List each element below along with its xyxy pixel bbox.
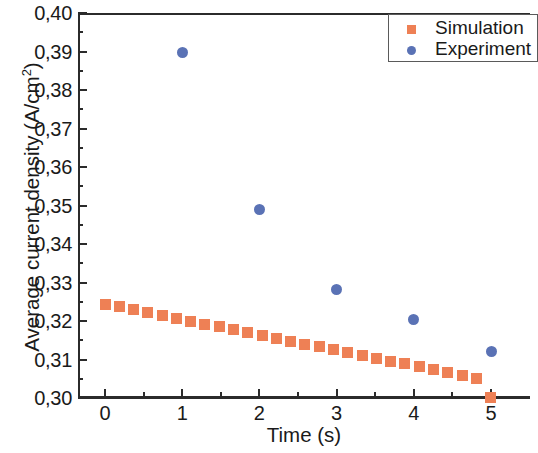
data-point <box>177 47 188 58</box>
y-tick-minor <box>78 108 83 110</box>
data-point <box>399 358 410 369</box>
x-tick-label: 1 <box>162 402 202 424</box>
data-point <box>457 370 468 381</box>
data-point <box>171 313 182 324</box>
y-tick-minor <box>78 70 83 72</box>
y-tick-major <box>78 166 87 168</box>
x-tick-major <box>336 389 338 398</box>
data-point <box>157 310 168 321</box>
x-tick-label: 2 <box>239 402 279 424</box>
data-point <box>142 307 153 318</box>
y-tick-minor <box>78 378 83 380</box>
y-tick-major <box>78 243 87 245</box>
data-point <box>214 321 225 332</box>
legend: SimulationExperiment <box>388 14 538 62</box>
y-tick-minor <box>78 224 83 226</box>
y-axis-title: Average current density (A/cm2) <box>21 27 43 387</box>
data-point <box>228 324 239 335</box>
y-tick-major <box>78 89 87 91</box>
data-point <box>428 364 439 375</box>
data-point <box>342 347 353 358</box>
x-tick-major <box>181 389 183 398</box>
x-tick-minor <box>220 392 222 397</box>
data-point <box>442 367 453 378</box>
y-tick-minor <box>78 185 83 187</box>
data-point <box>385 356 396 367</box>
x-axis-line <box>78 396 530 399</box>
x-tick-minor <box>297 392 299 397</box>
x-tick-label: 4 <box>394 402 434 424</box>
data-point <box>242 327 253 338</box>
data-point <box>285 336 296 347</box>
y-tick-major <box>78 205 87 207</box>
x-tick-major <box>104 389 106 398</box>
data-point <box>299 339 310 350</box>
data-point <box>328 344 339 355</box>
data-point <box>100 299 111 310</box>
y-tick-major <box>78 397 87 399</box>
y-tick-major <box>78 51 87 53</box>
y-tick-minor <box>78 301 83 303</box>
data-point <box>371 353 382 364</box>
data-point <box>114 301 125 312</box>
legend-item[interactable]: Experiment <box>389 39 537 60</box>
x-tick-major <box>258 389 260 398</box>
data-point <box>185 316 196 327</box>
x-tick-label: 3 <box>317 402 357 424</box>
legend-item[interactable]: Simulation <box>389 18 537 39</box>
y-axis-title-superscript: 2 <box>19 69 34 76</box>
y-tick-label: 0,40 <box>16 3 72 23</box>
legend-label: Experiment <box>435 38 531 60</box>
x-tick-minor <box>374 392 376 397</box>
data-point <box>414 361 425 372</box>
x-tick-label: 5 <box>471 402 511 424</box>
y-tick-minor <box>78 262 83 264</box>
y-tick-minor <box>78 31 83 33</box>
x-tick-major <box>413 389 415 398</box>
data-point <box>486 346 497 357</box>
y-tick-label: 0,30 <box>16 388 72 408</box>
y-tick-major <box>78 128 87 130</box>
y-tick-major <box>78 359 87 361</box>
data-point <box>314 341 325 352</box>
data-point <box>199 319 210 330</box>
data-point <box>254 204 265 215</box>
x-tick-label: 0 <box>85 402 125 424</box>
x-axis-title: Time (s) <box>78 424 530 446</box>
y-axis-title-base: Average current density (A/cm <box>20 76 43 351</box>
y-tick-minor <box>78 339 83 341</box>
legend-marker-circle-icon <box>407 46 416 55</box>
data-point <box>471 373 482 384</box>
y-tick-major <box>78 12 87 14</box>
y-axis-title-tail: ) <box>20 62 43 69</box>
legend-label: Simulation <box>435 17 524 39</box>
data-point <box>485 392 496 403</box>
y-tick-minor <box>78 147 83 149</box>
x-tick-minor <box>143 392 145 397</box>
data-point <box>128 304 139 315</box>
data-point <box>331 284 342 295</box>
data-point <box>271 333 282 344</box>
y-tick-major <box>78 282 87 284</box>
data-point <box>357 350 368 361</box>
legend-marker-square-icon <box>407 25 416 34</box>
y-tick-major <box>78 320 87 322</box>
data-point <box>257 330 268 341</box>
x-tick-minor <box>451 392 453 397</box>
